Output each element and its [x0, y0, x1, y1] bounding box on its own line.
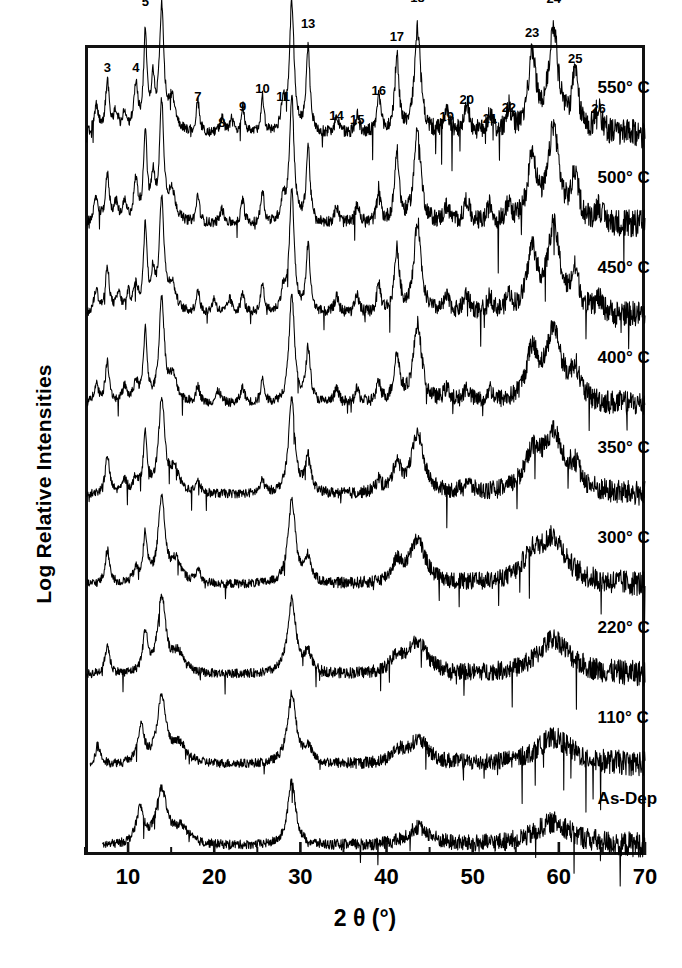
x-tick-label: 70 [633, 864, 657, 890]
trace-110C [90, 690, 645, 812]
peak-label-24: 24 [546, 0, 560, 5]
trace-220C [87, 594, 645, 709]
peak-label-5: 5 [142, 0, 149, 8]
diffraction-traces [85, 45, 645, 855]
peak-label-23: 23 [525, 26, 539, 39]
peak-label-18: 18 [410, 0, 424, 4]
xrd-figure: Log Relative Intensities 10203040506070 … [0, 0, 682, 968]
x-axis-label: 2 θ (°) [85, 905, 645, 932]
y-axis-label: Log Relative Intensities [14, 0, 74, 968]
trace-400C [87, 294, 645, 430]
trace-500C [87, 95, 645, 273]
x-tick-label: 40 [374, 864, 398, 890]
trace-AsDep [102, 779, 645, 886]
x-tick-label: 10 [116, 864, 140, 890]
x-axis-label-text: 2 θ (°) [334, 905, 397, 931]
x-tick-label: 50 [460, 864, 484, 890]
x-tick-label: 60 [547, 864, 571, 890]
x-tick-label: 20 [202, 864, 226, 890]
trace-350C [87, 397, 645, 528]
peak-label-13: 13 [301, 17, 315, 30]
y-axis-label-text: Log Relative Intensities [32, 364, 56, 603]
x-tick-label: 30 [288, 864, 312, 890]
peak-label-17: 17 [390, 30, 404, 43]
trace-450C [87, 188, 645, 348]
trace-300C [87, 494, 645, 621]
trace-550C [87, 0, 645, 171]
